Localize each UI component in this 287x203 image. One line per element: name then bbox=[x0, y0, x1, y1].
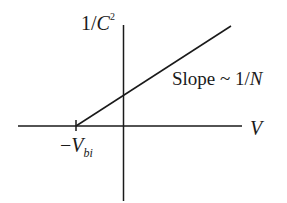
slope-text: Slope ~ 1/ bbox=[172, 68, 250, 89]
plot-lines bbox=[0, 0, 287, 203]
slope-label: Slope ~ 1/N bbox=[172, 69, 263, 88]
y-label-prefix: 1/ bbox=[81, 12, 97, 34]
y-axis-label: 1/C2 bbox=[81, 13, 115, 33]
intercept-subscript: bi bbox=[84, 146, 93, 160]
intercept-label: −Vbi bbox=[60, 135, 93, 155]
cv-plot-diagram: 1/C2 Slope ~ 1/N V −Vbi bbox=[0, 0, 287, 203]
y-label-exponent: 2 bbox=[110, 11, 115, 22]
x-axis-label: V bbox=[250, 118, 262, 138]
slope-var: N bbox=[250, 68, 263, 89]
intercept-var: V bbox=[71, 134, 83, 156]
y-label-var: C bbox=[97, 12, 110, 34]
intercept-sign: − bbox=[60, 134, 71, 156]
